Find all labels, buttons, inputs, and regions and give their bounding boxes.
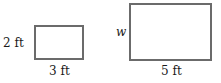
large-rectangle-height-label: w [116,25,126,39]
large-rectangle-width-label: 5 ft [161,64,182,78]
small-rectangle-height-label: 2 ft [3,36,24,50]
large-rectangle [129,3,212,61]
small-rectangle [34,25,84,60]
small-rectangle-width-label: 3 ft [49,64,70,78]
